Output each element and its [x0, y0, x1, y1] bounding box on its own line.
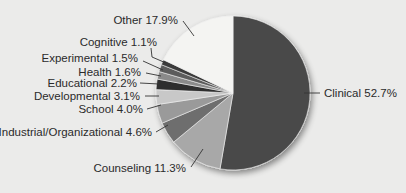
label-educational: Educational 2.2% [47, 77, 137, 89]
label-counseling: Counseling 11.3% [94, 162, 187, 174]
label-school: School 4.0% [78, 103, 143, 115]
leader-line-educational [140, 83, 159, 84]
leader-line-experimental [143, 61, 163, 70]
label-cognitive: Cognitive 1.1% [80, 36, 157, 48]
pie-slices [156, 16, 310, 170]
pie-chart: Clinical 52.7% Counseling 11.3% Industri… [0, 0, 406, 193]
pie-slice-clinical [220, 16, 310, 170]
label-experimental: Experimental 1.5% [41, 52, 138, 64]
label-developmental: Developmental 3.1% [34, 90, 140, 102]
label-health: Health 1.6% [78, 66, 141, 78]
label-industrial: Industrial/Organizational 4.6% [0, 126, 152, 138]
label-clinical: Clinical 52.7% [324, 87, 397, 99]
label-other: Other 17.9% [113, 14, 178, 26]
